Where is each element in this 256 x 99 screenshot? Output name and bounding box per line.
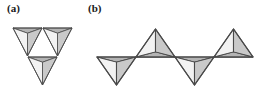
tetrahedra-diagram bbox=[0, 0, 256, 99]
panel-b-group bbox=[97, 29, 253, 85]
tetrahedron-a3 bbox=[28, 57, 57, 85]
tetrahedron-b2 bbox=[136, 29, 175, 57]
tetrahedron-b4 bbox=[214, 29, 253, 57]
tetrahedron-b1 bbox=[97, 57, 136, 85]
tetrahedron-a1 bbox=[13, 28, 42, 56]
panel-a-group bbox=[13, 28, 72, 85]
tetrahedron-a2 bbox=[43, 28, 72, 56]
figure-root: (a) (b) bbox=[0, 0, 256, 99]
tetrahedron-b3 bbox=[175, 57, 214, 85]
